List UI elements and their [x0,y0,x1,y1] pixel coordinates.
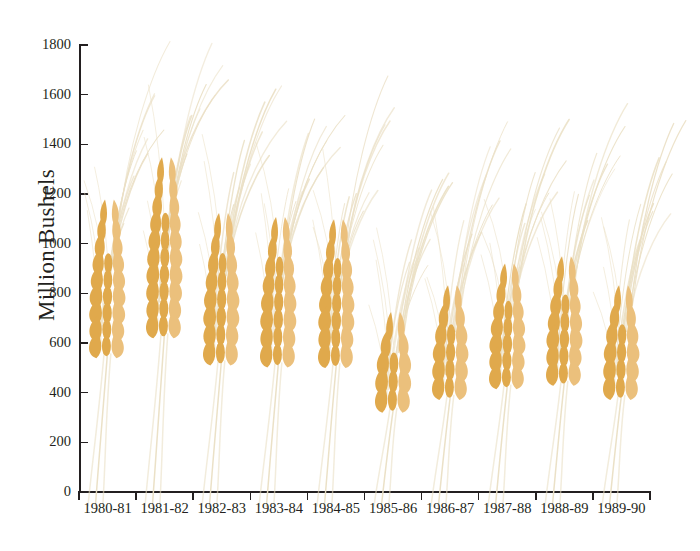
x-axis-tick [535,491,537,500]
x-axis-tick [421,491,423,500]
x-axis-tick [78,491,80,500]
wheat-production-chart: Million Bushels 020040060080010001200140… [0,0,700,551]
y-axis-tick-label: 800 [8,284,71,301]
x-axis-tick [478,491,480,500]
x-axis-tick [364,491,366,500]
y-axis-tick [79,144,88,146]
x-axis-tick [135,491,137,500]
y-axis-tick [79,94,88,96]
wheat-stalk-graphic [581,291,667,492]
y-axis-tick-label: 1400 [8,135,71,152]
x-axis-tick [592,491,594,500]
y-axis-tick-label: 400 [8,384,71,401]
y-axis-tick-label: 0 [8,483,71,500]
y-axis-tick-label: 1000 [8,235,71,252]
y-axis-tick-label: 600 [8,334,71,351]
y-axis-tick-label: 200 [8,433,71,450]
y-axis-tick-label: 1800 [8,36,71,53]
y-axis-tick [79,44,88,46]
y-axis-tick [79,193,88,195]
x-axis-tick [307,491,309,500]
x-axis-tick [250,491,252,500]
x-axis-tick-label: 1989-90 [578,500,664,517]
y-axis-tick-label: 1600 [8,86,71,103]
x-axis-tick [192,491,194,500]
x-axis-tick [649,491,651,500]
wheat-stalk [581,291,667,492]
y-axis-tick-label: 1200 [8,185,71,202]
